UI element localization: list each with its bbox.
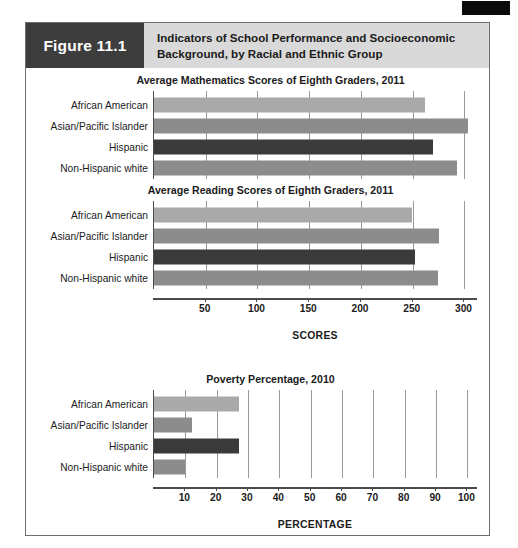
axis-line-percentage bbox=[153, 487, 477, 489]
axis-tick bbox=[463, 298, 464, 302]
axis-tick-label: 100 bbox=[458, 492, 475, 503]
x-axis-percentage: 102030405060708090100 bbox=[153, 487, 477, 513]
axis-tick bbox=[184, 487, 185, 491]
axis-tick bbox=[310, 487, 311, 491]
gridline-300 bbox=[464, 91, 465, 179]
axis-tick bbox=[308, 298, 309, 302]
x-axis-title-scores: SCORES bbox=[153, 330, 477, 341]
bar bbox=[154, 119, 468, 134]
axis-tick bbox=[216, 487, 217, 491]
axis-tick bbox=[205, 298, 206, 302]
axis-tick-label: 200 bbox=[351, 303, 368, 314]
axis-tick-label: 150 bbox=[300, 303, 317, 314]
axis-tick-label: 80 bbox=[398, 492, 409, 503]
bar bbox=[154, 397, 239, 412]
category-label: African American bbox=[71, 100, 148, 111]
scan-artifact-mark bbox=[462, 1, 510, 15]
category-label: Hispanic bbox=[109, 252, 148, 263]
gridline-300 bbox=[464, 201, 465, 289]
axis-tick bbox=[256, 298, 257, 302]
category-label: African American bbox=[71, 399, 148, 410]
gridline-60 bbox=[342, 390, 343, 478]
axis-tick bbox=[435, 487, 436, 491]
chart-panel-mathematics: Average Mathematics Scores of Eighth Gra… bbox=[26, 74, 489, 179]
axis-tick-label: 250 bbox=[403, 303, 420, 314]
axis-tick-label: 300 bbox=[455, 303, 472, 314]
axis-tick bbox=[247, 487, 248, 491]
figure-body: Average Mathematics Scores of Eighth Gra… bbox=[26, 68, 489, 535]
axis-tick-label: 10 bbox=[179, 492, 190, 503]
category-label: Non-Hispanic white bbox=[60, 273, 148, 284]
category-label: Non-Hispanic white bbox=[60, 163, 148, 174]
figure-title: Indicators of School Performance and Soc… bbox=[144, 23, 489, 68]
bar bbox=[154, 140, 433, 155]
category-label: Asian/Pacific Islander bbox=[51, 231, 148, 242]
axis-tick bbox=[412, 298, 413, 302]
category-label: Non-Hispanic white bbox=[60, 462, 148, 473]
axis-tick-label: 50 bbox=[304, 492, 315, 503]
plot-area-reading: African AmericanAsian/Pacific IslanderHi… bbox=[26, 201, 489, 289]
category-labels-mathematics: African AmericanAsian/Pacific IslanderHi… bbox=[26, 91, 152, 179]
category-label: Asian/Pacific Islander bbox=[51, 420, 148, 431]
gridline-30 bbox=[248, 390, 249, 478]
bars-poverty bbox=[153, 390, 477, 478]
figure-header: Figure 11.1 Indicators of School Perform… bbox=[26, 23, 489, 68]
category-label: African American bbox=[71, 210, 148, 221]
category-labels-poverty: African AmericanAsian/Pacific IslanderHi… bbox=[26, 390, 152, 478]
axis-tick-label: 90 bbox=[429, 492, 440, 503]
plot-area-mathematics: African AmericanAsian/Pacific IslanderHi… bbox=[26, 91, 489, 179]
plot-area-poverty: African AmericanAsian/Pacific IslanderHi… bbox=[26, 390, 489, 478]
category-label: Hispanic bbox=[109, 441, 148, 452]
axis-tick bbox=[278, 487, 279, 491]
axis-tick-label: 20 bbox=[210, 492, 221, 503]
gridline-70 bbox=[373, 390, 374, 478]
bar bbox=[154, 271, 438, 286]
chart-title-reading: Average Reading Scores of Eighth Graders… bbox=[26, 184, 489, 196]
bar bbox=[154, 250, 415, 265]
axis-tick bbox=[404, 487, 405, 491]
axis-line-scores bbox=[153, 298, 477, 300]
axis-tick-label: 100 bbox=[248, 303, 265, 314]
axis-tick bbox=[372, 487, 373, 491]
chart-title-poverty: Poverty Percentage, 2010 bbox=[26, 373, 489, 385]
gridline-40 bbox=[279, 390, 280, 478]
bar bbox=[154, 418, 192, 433]
bar bbox=[154, 460, 185, 475]
bar bbox=[154, 439, 239, 454]
bar bbox=[154, 208, 412, 223]
axis-tick-label: 40 bbox=[273, 492, 284, 503]
x-axis-scores: 50100150200250300 bbox=[153, 298, 477, 324]
figure-container: Figure 11.1 Indicators of School Perform… bbox=[25, 22, 490, 536]
x-axis-title-percentage: PERCENTAGE bbox=[153, 519, 477, 530]
category-labels-reading: African AmericanAsian/Pacific IslanderHi… bbox=[26, 201, 152, 289]
axis-tick bbox=[341, 487, 342, 491]
axis-tick-label: 50 bbox=[199, 303, 210, 314]
bar bbox=[154, 98, 425, 113]
bars-mathematics bbox=[153, 91, 477, 179]
chart-panel-reading: Average Reading Scores of Eighth Graders… bbox=[26, 184, 489, 289]
bars-reading bbox=[153, 201, 477, 289]
axis-tick bbox=[360, 298, 361, 302]
bar bbox=[154, 161, 457, 176]
bar bbox=[154, 229, 439, 244]
axis-tick-label: 30 bbox=[241, 492, 252, 503]
axis-tick bbox=[466, 487, 467, 491]
category-label: Asian/Pacific Islander bbox=[51, 121, 148, 132]
figure-number-block: Figure 11.1 bbox=[26, 23, 144, 68]
gridline-100 bbox=[467, 390, 468, 478]
chart-panel-poverty: Poverty Percentage, 2010 African America… bbox=[26, 373, 489, 478]
category-label: Hispanic bbox=[109, 142, 148, 153]
gridline-90 bbox=[436, 390, 437, 478]
gridline-80 bbox=[405, 390, 406, 478]
axis-tick-label: 70 bbox=[367, 492, 378, 503]
chart-title-mathematics: Average Mathematics Scores of Eighth Gra… bbox=[26, 74, 489, 86]
axis-tick-label: 60 bbox=[335, 492, 346, 503]
gridline-50 bbox=[311, 390, 312, 478]
